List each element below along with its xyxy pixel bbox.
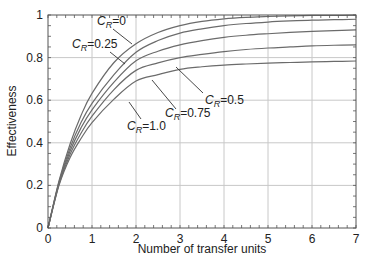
x-tick-label: 1 [89,232,96,246]
x-tick-label: 0 [45,232,52,246]
curve-c-r-0-5 [48,30,356,228]
curve-label: CR=1.0 [127,119,166,135]
leader-line [129,102,141,119]
y-tick-labels: 00.20.40.60.81 [26,8,43,235]
curve-label: CR=0.5 [205,93,244,109]
curve-c-r-1-0 [48,61,356,228]
x-tick-label: 7 [353,232,360,246]
y-tick-label: 0 [36,221,43,235]
y-tick-label: 0.4 [26,136,43,150]
leader-line [152,80,176,109]
x-tick-label: 6 [309,232,316,246]
y-tick-label: 1 [36,8,43,22]
x-axis-label: Number of transfer units [138,242,267,256]
curve-label: CR=0.75 [165,106,211,122]
effectiveness-ntu-chart: 01234567 00.20.40.60.81 CR=0CR=0.25CR=0.… [0,0,372,272]
y-tick-label: 0.6 [26,93,43,107]
curve-label: CR=0.25 [72,37,118,53]
y-tick-label: 0.2 [26,178,43,192]
curve-label: CR=0 [97,14,126,30]
y-axis-label: Effectiveness [5,85,19,156]
y-tick-label: 0.8 [26,51,43,65]
curve-c-r-0-75 [48,45,356,228]
